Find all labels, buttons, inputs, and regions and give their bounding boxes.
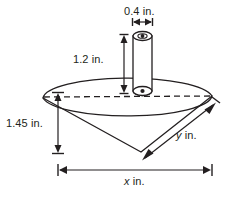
diameter-arrow-right [145, 19, 152, 26]
dimension-cylinder-height [120, 35, 129, 94]
base-arrow-right [203, 166, 211, 174]
cylinder-bottom-center-dot [140, 89, 144, 93]
cylinder-top-center-dot [141, 34, 145, 38]
base-diameter-dashed-line [44, 96, 211, 97]
label-slant-height: y in. [176, 130, 197, 141]
base-rim-back-arc [43, 78, 212, 98]
cone-height-arrow-bottom [55, 145, 62, 153]
slant-tick-upper [212, 97, 220, 103]
slant-arrow-lower [142, 149, 154, 161]
cylinder-shape [133, 32, 152, 96]
figure-container: 0.4 in. 1.2 in. 1.45 in. y in. x in. [0, 0, 231, 200]
slant-arrow-upper [205, 103, 217, 115]
cyl-height-arrow-bottom [121, 85, 128, 93]
cone-slant-sides [43, 96, 212, 152]
base-arrow-left [59, 166, 67, 174]
label-cylinder-diameter: 0.4 in. [124, 6, 155, 17]
label-cone-height: 1.45 in. [6, 118, 43, 129]
dimension-cone-height [52, 93, 64, 154]
label-slant-unit: in. [182, 129, 197, 141]
base-rim-front-arc [43, 96, 212, 116]
label-base-unit: in. [130, 175, 145, 187]
diameter-arrow-left [133, 19, 140, 26]
cyl-height-arrow-top [121, 35, 128, 43]
label-base-diameter: x in. [124, 176, 145, 187]
dimension-cylinder-diameter [133, 18, 153, 26]
geometry-diagram [0, 0, 231, 200]
label-cylinder-height: 1.2 in. [73, 54, 104, 65]
